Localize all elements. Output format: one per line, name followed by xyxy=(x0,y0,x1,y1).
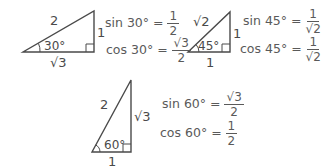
equation-lhs: sin 30° = xyxy=(105,17,163,30)
fraction: √32 xyxy=(224,91,243,118)
equation-cos45: cos 45° = 1√2 xyxy=(240,36,321,63)
fraction: √32 xyxy=(172,37,191,64)
equation-lhs: sin 60° = xyxy=(162,98,220,111)
equation-sin30: sin 30° = 12 xyxy=(105,10,179,37)
angle-label: 45° xyxy=(198,40,219,52)
angle-label: 30° xyxy=(44,40,65,52)
denominator: 2 xyxy=(177,51,185,64)
equation-cos60: cos 60° = 12 xyxy=(160,120,237,147)
hypotenuse-label: √2 xyxy=(193,15,210,28)
equation-sin60: sin 60° = √32 xyxy=(162,91,244,118)
adjacent-label: √3 xyxy=(50,56,67,69)
fraction: 1√2 xyxy=(306,36,321,63)
equation-lhs: cos 60° = xyxy=(160,127,222,140)
opposite-label: √3 xyxy=(134,110,151,123)
denominator: 2 xyxy=(230,105,238,118)
hypotenuse-label: 2 xyxy=(100,98,108,111)
equation-lhs: cos 45° = xyxy=(240,43,302,56)
adjacent-label: 1 xyxy=(206,56,214,69)
denominator: 2 xyxy=(228,134,236,147)
fraction: 12 xyxy=(226,120,238,147)
equation-lhs: cos 30° = xyxy=(106,44,168,57)
numerator: 1 xyxy=(226,120,238,134)
numerator: √3 xyxy=(172,37,191,51)
numerator: 1 xyxy=(307,8,319,22)
denominator: √2 xyxy=(305,22,320,35)
numerator: √3 xyxy=(224,91,243,105)
fraction: 12 xyxy=(167,10,179,37)
denominator: √2 xyxy=(306,50,321,63)
adjacent-label: 1 xyxy=(108,155,116,168)
equation-lhs: sin 45° = xyxy=(243,15,301,28)
equation-sin45: sin 45° = 1√2 xyxy=(243,8,321,35)
equation-cos30: cos 30° = √32 xyxy=(106,37,191,64)
numerator: 1 xyxy=(307,36,319,50)
fraction: 1√2 xyxy=(305,8,320,35)
numerator: 1 xyxy=(167,10,179,24)
hypotenuse-label: 2 xyxy=(50,14,58,27)
angle-label: 60° xyxy=(104,139,125,151)
